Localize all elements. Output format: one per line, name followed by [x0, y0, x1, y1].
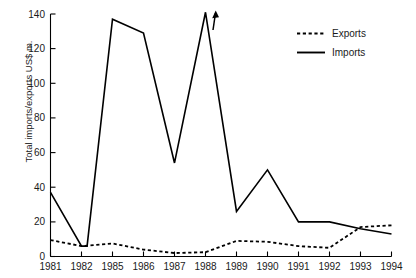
x-tick-label-1994: 1994: [380, 261, 403, 272]
x-tick-label-1988: 1988: [194, 261, 217, 272]
y-tick-label-40: 40: [34, 182, 46, 193]
x-tick-label-1993: 1993: [349, 261, 372, 272]
x-tick-label-1985: 1985: [101, 261, 124, 272]
y-axis: 140 120 100 80 60 40 20 0: [28, 9, 55, 263]
chart-figure: Total imports/exports US$ m. 140 120 100…: [0, 0, 416, 278]
y-tick-label-100: 100: [28, 78, 45, 89]
x-tick-label-1991: 1991: [287, 261, 310, 272]
y-tick-label-140: 140: [28, 9, 45, 20]
y-tick-label-60: 60: [34, 147, 46, 158]
line-chart-plot: 140 120 100 80 60 40 20 0 1981 1982 1: [0, 0, 416, 278]
x-tick-label-1989: 1989: [225, 261, 248, 272]
x-tick-label-1992: 1992: [318, 261, 341, 272]
series-line-exports: [51, 225, 392, 253]
legend-label-imports: Imports: [332, 47, 365, 58]
x-axis: 1981 1982 1985 1986 1987 1988 1989 1990 …: [39, 252, 403, 273]
x-tick-label-1987: 1987: [163, 261, 186, 272]
legend-item-exports[interactable]: Exports: [297, 28, 366, 39]
legend-item-imports[interactable]: Imports: [297, 47, 365, 58]
x-tick-label-1986: 1986: [132, 261, 155, 272]
x-tick-label-1990: 1990: [256, 261, 279, 272]
x-tick-label-1981: 1981: [39, 261, 62, 272]
up-arrow-icon-head: [212, 11, 219, 19]
chart-legend: Exports Imports: [297, 28, 366, 58]
y-tick-label-120: 120: [28, 43, 45, 54]
x-tick-label-1982: 1982: [70, 261, 93, 272]
legend-label-exports: Exports: [332, 28, 366, 39]
y-tick-label-20: 20: [34, 216, 46, 227]
off-scale-arrow-annotation: [212, 11, 219, 31]
y-tick-label-80: 80: [34, 112, 46, 123]
